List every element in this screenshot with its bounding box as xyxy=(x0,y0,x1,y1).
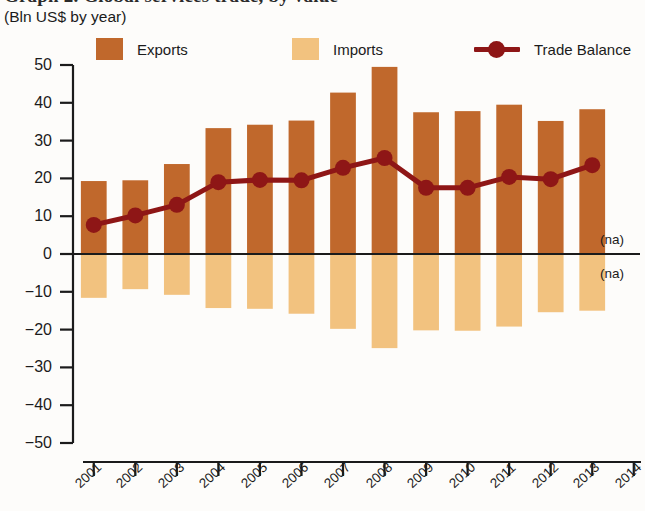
bar-imports-2006 xyxy=(289,254,315,314)
chart-page: Graph 2. Global services trade, by value… xyxy=(0,0,645,511)
y-tick-label--50: −50 xyxy=(8,435,52,451)
data-point-2004 xyxy=(210,174,226,190)
y-tick-label--40: −40 xyxy=(8,397,52,413)
bar-imports-2003 xyxy=(164,254,190,295)
bar-imports-2009 xyxy=(413,254,439,330)
data-point-2009 xyxy=(418,180,434,196)
data-point-2010 xyxy=(460,180,476,196)
y-tick-label-30: 30 xyxy=(8,133,52,149)
bar-imports-2007 xyxy=(330,254,356,329)
y-tick-label-10: 10 xyxy=(8,208,52,224)
y-tick-label--20: −20 xyxy=(8,322,52,338)
bar-exports-2005 xyxy=(247,125,273,254)
y-tick-label-0: 0 xyxy=(8,246,52,262)
bar-imports-2002 xyxy=(122,254,148,289)
data-point-2005 xyxy=(252,172,268,188)
na-label-lower: (na) xyxy=(600,266,624,281)
bar-exports-2004 xyxy=(206,128,232,254)
bar-imports-2010 xyxy=(455,254,481,331)
y-tick-label--10: −10 xyxy=(8,284,52,300)
chart-canvas xyxy=(0,0,645,511)
data-point-2001 xyxy=(86,217,102,233)
data-point-2002 xyxy=(127,207,143,223)
y-tick-label-20: 20 xyxy=(8,170,52,186)
data-point-2013 xyxy=(584,157,600,173)
bar-imports-2001 xyxy=(81,254,107,298)
data-point-2007 xyxy=(335,160,351,176)
bar-group-imports xyxy=(81,254,605,348)
y-tick-label--30: −30 xyxy=(8,359,52,375)
data-point-2008 xyxy=(377,150,393,166)
bar-imports-2008 xyxy=(372,254,398,348)
bar-imports-2011 xyxy=(496,254,522,327)
bar-imports-2005 xyxy=(247,254,273,309)
data-point-2006 xyxy=(293,172,309,188)
data-point-2011 xyxy=(501,169,517,185)
bar-imports-2012 xyxy=(538,254,564,312)
y-tick-label-40: 40 xyxy=(8,95,52,111)
bar-exports-2012 xyxy=(538,121,564,254)
bar-imports-2013 xyxy=(579,254,605,311)
bar-imports-2004 xyxy=(206,254,232,308)
plot-area: 50403020100−10−20−30−40−50 2001200220032… xyxy=(0,0,645,511)
y-tick-label-50: 50 xyxy=(8,57,52,73)
data-point-2012 xyxy=(543,171,559,187)
data-point-2003 xyxy=(169,197,185,213)
na-label-upper: (na) xyxy=(600,232,624,247)
